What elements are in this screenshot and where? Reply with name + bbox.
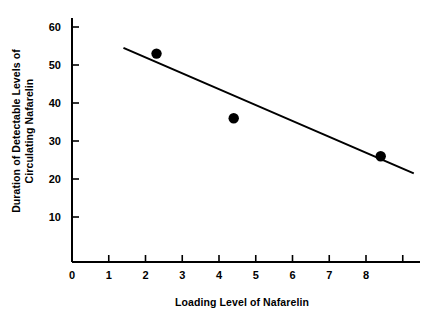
x-axis-ticks: 012345678 [69,255,403,281]
data-point [151,48,161,58]
svg-text:60: 60 [49,21,61,33]
data-point [229,113,239,123]
svg-text:6: 6 [289,269,295,281]
svg-text:8: 8 [363,269,369,281]
svg-text:2: 2 [142,269,148,281]
data-point [376,151,386,161]
x-axis-title: Loading Level of Nafarelin [60,296,424,308]
data-points [151,48,386,161]
svg-text:10: 10 [49,211,61,223]
svg-text:0: 0 [69,269,75,281]
y-axis-ticks: 102030405060 [49,21,79,223]
chart-figure: Duration of Detectable Levels of Circula… [0,0,424,321]
svg-text:1: 1 [106,269,112,281]
svg-text:20: 20 [49,173,61,185]
scatter-plot: 102030405060 012345678 [0,0,424,321]
axes [72,18,420,262]
svg-text:30: 30 [49,135,61,147]
svg-text:3: 3 [179,269,185,281]
svg-text:50: 50 [49,59,61,71]
svg-text:5: 5 [253,269,259,281]
svg-text:4: 4 [216,269,223,281]
svg-text:7: 7 [326,269,332,281]
trend-line [123,48,413,173]
svg-text:40: 40 [49,97,61,109]
